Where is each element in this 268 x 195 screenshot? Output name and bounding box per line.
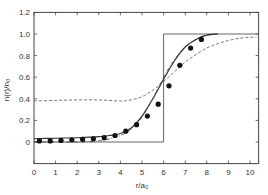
x-axis-ticks: 012345678910	[32, 12, 255, 176]
data-point	[188, 45, 193, 50]
data-point	[156, 102, 161, 107]
y-tick-label: 0.2	[19, 116, 31, 125]
data-point	[134, 122, 139, 127]
data-point	[37, 138, 42, 143]
data-point	[177, 63, 182, 68]
x-tick-label: 6	[161, 168, 166, 177]
x-tick-label: 2	[75, 168, 80, 177]
series-step-profile	[34, 34, 259, 142]
data-point	[199, 37, 204, 42]
data-point	[112, 133, 117, 138]
x-tick-label: 7	[183, 168, 188, 177]
y-axis-ticks: 00.20.40.60.81.01.2	[19, 8, 259, 147]
y-tick-label: 0.8	[19, 52, 31, 61]
data-point	[48, 138, 53, 143]
chart-container: 00.20.40.60.81.01.2 012345678910 r/a₀ n(…	[0, 0, 268, 195]
data-point	[102, 135, 107, 140]
x-tick-label: 8	[205, 168, 210, 177]
x-tick-label: 3	[97, 168, 102, 177]
x-tick-label: 1	[53, 168, 58, 177]
series-dashed-curve	[34, 37, 257, 101]
plot-border	[34, 12, 259, 163]
y-tick-label: 0.4	[19, 95, 31, 104]
data-point	[145, 113, 150, 118]
x-tick-label: 10	[246, 168, 255, 177]
x-tick-label: 0	[32, 168, 37, 177]
x-axis-label: r/a₀	[136, 181, 149, 190]
y-tick-label: 1.2	[19, 8, 31, 17]
data-point	[91, 136, 96, 141]
series-layer	[34, 34, 259, 144]
plot-frame	[34, 12, 259, 163]
y-axis-label: n(r)/n₀	[2, 79, 11, 101]
x-tick-label: 5	[140, 168, 145, 177]
chart-svg: 00.20.40.60.81.01.2 012345678910 r/a₀ n(…	[0, 0, 268, 195]
data-point	[58, 138, 63, 143]
data-point	[123, 129, 128, 134]
x-tick-label: 4	[118, 168, 123, 177]
y-tick-label: 0.6	[19, 73, 31, 82]
data-point	[69, 137, 74, 142]
y-tick-label: 1.0	[19, 30, 31, 39]
y-tick-label: 0	[26, 138, 31, 147]
data-point	[80, 137, 85, 142]
x-tick-label: 9	[226, 168, 231, 177]
data-point	[166, 83, 171, 88]
